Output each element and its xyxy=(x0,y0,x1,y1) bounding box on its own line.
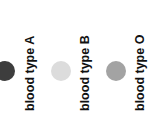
legend-swatch-o xyxy=(106,61,126,81)
legend-swatch-a xyxy=(0,61,15,81)
legend-label-b: blood type B xyxy=(79,35,92,111)
legend-swatch-b xyxy=(51,61,71,81)
chart-legend: blood type A blood type B blood type O xyxy=(0,0,154,128)
legend-label-o: blood type O xyxy=(134,35,147,111)
legend-label-a: blood type A xyxy=(24,36,37,111)
